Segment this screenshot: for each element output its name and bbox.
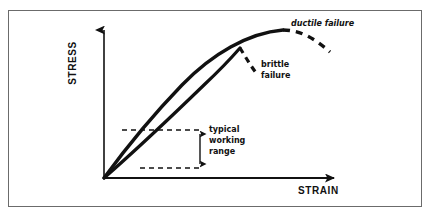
brittle-failure-label-line1: brittle xyxy=(261,59,290,70)
ductile-failure-label: ductile failure xyxy=(291,18,354,29)
x-axis-title: STRAIN xyxy=(298,185,339,196)
y-axis-title: STRESS xyxy=(67,41,78,85)
working-range-label-line1: typical xyxy=(209,124,245,135)
working-range-label: typical working range xyxy=(209,124,245,157)
working-range-label-line3: range xyxy=(209,146,245,157)
brittle-failure-label: brittle failure xyxy=(261,59,290,81)
brittle-curve-dashed xyxy=(240,48,257,74)
brittle-failure-label-line2: failure xyxy=(261,70,290,81)
plot-canvas xyxy=(0,0,431,217)
stress-strain-figure: STRESS STRAIN ductile failure brittle fa… xyxy=(0,0,431,217)
brittle-curve-solid xyxy=(104,48,240,178)
working-range-label-line2: working xyxy=(209,135,245,146)
ductile-curve-dashed xyxy=(283,30,330,52)
